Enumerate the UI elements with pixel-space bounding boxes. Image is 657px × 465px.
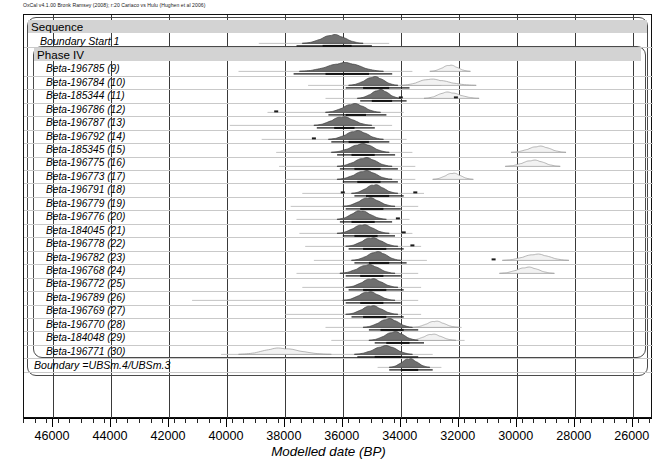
axis-minor-tick (139, 418, 140, 423)
axis-tick-label-38000: 38000 (266, 429, 301, 443)
row-label-sequence: Sequence (31, 20, 83, 33)
axis-tick-label-46000: 46000 (34, 429, 69, 443)
axis-minor-tick (93, 418, 94, 423)
distribution-beta-184048-29 (24, 331, 653, 344)
distribution-beta-185345-15 (24, 143, 653, 156)
distribution-beta-196779-19 (24, 197, 653, 210)
axis-minor-tick (255, 418, 256, 423)
axis-minor-tick (220, 418, 221, 423)
distribution-beta-196782-23 (24, 251, 653, 264)
oxcal-plot: OxCal v4.1.00 Bronk Ramsey (2008); r:20 … (0, 0, 657, 465)
axis-minor-tick (429, 418, 430, 423)
axis-minor-tick (301, 418, 302, 423)
row-label-phase-iv: Phase IV (37, 48, 84, 61)
axis-minor-tick (197, 418, 198, 423)
axis-minor-tick (348, 418, 349, 423)
axis-major-tick-28000 (574, 418, 575, 427)
distribution-beta-185344-11 (24, 89, 653, 102)
row-separator (24, 372, 653, 373)
axis-minor-tick (545, 418, 546, 423)
axis-minor-tick (638, 418, 639, 423)
axis-minor-tick (209, 418, 210, 423)
axis-minor-tick (394, 418, 395, 423)
axis-minor-tick (185, 418, 186, 423)
group-band-phase-iv (34, 48, 641, 61)
plot-frame: SequenceBoundary Start 1Phase IVBeta-196… (23, 14, 652, 418)
axis-minor-tick (313, 418, 314, 423)
distribution-beta-196776-20 (24, 210, 653, 223)
axis-minor-tick (406, 418, 407, 423)
distribution-boundary-ubsm-4-ubsm-3 (24, 358, 653, 371)
axis-minor-tick (371, 418, 372, 423)
axis-tick-label-32000: 32000 (440, 429, 475, 443)
distribution-beta-196785-9 (24, 62, 653, 75)
axis-minor-tick (243, 418, 244, 423)
axis-minor-tick (324, 418, 325, 423)
distribution-beta-196787-13 (24, 116, 653, 129)
axis-minor-tick (35, 418, 36, 423)
axis-minor-tick (533, 418, 534, 423)
axis-minor-tick (278, 418, 279, 423)
axis-minor-tick (603, 418, 604, 423)
axis-minor-tick (487, 418, 488, 423)
axis-minor-tick (556, 418, 557, 423)
axis-minor-tick (580, 418, 581, 423)
distribution-beta-196792-14 (24, 130, 653, 143)
axis-major-tick-46000 (52, 418, 53, 427)
axis-minor-tick (382, 418, 383, 423)
axis-minor-tick (232, 418, 233, 423)
distribution-beta-196773-17 (24, 170, 653, 183)
axis-major-tick-36000 (342, 418, 343, 427)
axis-minor-tick (510, 418, 511, 423)
axis-tick-label-36000: 36000 (324, 429, 359, 443)
axis-minor-tick (81, 418, 82, 423)
axis-minor-tick (58, 418, 59, 423)
axis-minor-tick (614, 418, 615, 423)
axis-major-tick-34000 (400, 418, 401, 427)
distribution-beta-196770-28 (24, 318, 653, 331)
axis-major-tick-32000 (458, 418, 459, 427)
axis-minor-tick (452, 418, 453, 423)
axis-minor-tick (498, 418, 499, 423)
distribution-beta-196778-22 (24, 237, 653, 250)
axis-tick-label-30000: 30000 (498, 429, 533, 443)
distribution-beta-196768-24 (24, 264, 653, 277)
axis-major-tick-44000 (110, 418, 111, 427)
axis-tick-label-34000: 34000 (382, 429, 417, 443)
distribution-boundary-start-1 (24, 34, 653, 47)
axis-minor-tick (522, 418, 523, 423)
distribution-beta-196772-25 (24, 278, 653, 291)
axis-minor-tick (104, 418, 105, 423)
axis-minor-tick (626, 418, 627, 423)
distribution-beta-196791-18 (24, 184, 653, 197)
axis-major-tick-40000 (226, 418, 227, 427)
distribution-beta-196784-10 (24, 76, 653, 89)
axis-minor-tick (359, 418, 360, 423)
axis-major-tick-30000 (516, 418, 517, 427)
axis-minor-tick (23, 418, 24, 423)
axis-minor-tick (417, 418, 418, 423)
axis-minor-tick (162, 418, 163, 423)
axis-minor-tick (336, 418, 337, 423)
axis-minor-tick (440, 418, 441, 423)
axis-major-tick-26000 (632, 418, 633, 427)
axis-minor-tick (151, 418, 152, 423)
axis-minor-tick (649, 418, 650, 423)
axis-tick-label-28000: 28000 (556, 429, 591, 443)
distribution-beta-196789-26 (24, 291, 653, 304)
distribution-beta-196771-30 (24, 345, 653, 358)
axis-line (23, 418, 652, 419)
axis-tick-label-42000: 42000 (150, 429, 185, 443)
axis-minor-tick (290, 418, 291, 423)
axis-minor-tick (475, 418, 476, 423)
axis-minor-tick (266, 418, 267, 423)
distribution-beta-196786-12 (24, 103, 653, 116)
axis-minor-tick (46, 418, 47, 423)
x-axis-title: Modelled date (BP) (0, 444, 657, 459)
axis-tick-label-44000: 44000 (92, 429, 127, 443)
axis-tick-label-26000: 26000 (614, 429, 649, 443)
axis-minor-tick (116, 418, 117, 423)
distribution-beta-196769-27 (24, 305, 653, 318)
distribution-beta-196775-16 (24, 157, 653, 170)
axis-minor-tick (174, 418, 175, 423)
